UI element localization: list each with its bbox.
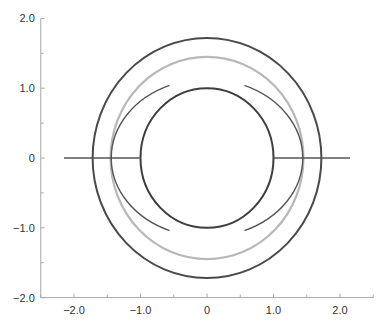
y-tick-label: 1.0 — [19, 82, 34, 94]
y-tick-label: −1.0 — [13, 222, 35, 234]
inner-circle — [141, 88, 274, 228]
x-tick-label: −1.0 — [130, 304, 152, 316]
x-tick-label: 2.0 — [332, 304, 347, 316]
plot-area — [64, 38, 350, 278]
y-tick-label: 0 — [29, 152, 35, 164]
x-tick-label: −2.0 — [63, 304, 85, 316]
x-tick-label: 1.0 — [266, 304, 281, 316]
chart: −2.0−1.001.02.02.01.00−1.0−2.0 — [0, 0, 387, 325]
y-tick-label: −2.0 — [13, 292, 35, 304]
y-tick-label: 2.0 — [19, 12, 34, 24]
x-tick-label: 0 — [204, 304, 210, 316]
